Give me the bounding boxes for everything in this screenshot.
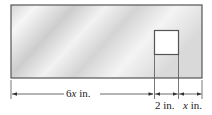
label-x-in: x in. xyxy=(183,100,202,111)
rectangle-with-square-hole-diagram: 6x in. 2 in. x in. xyxy=(0,0,212,115)
arrowhead-icon xyxy=(197,92,202,95)
label-2-in: 2 in. xyxy=(155,100,175,111)
diagram-graphic xyxy=(0,0,212,115)
arrowhead-icon xyxy=(12,92,17,95)
arrowhead-icon xyxy=(149,92,154,95)
arrowhead-icon xyxy=(180,92,185,95)
label-6x-in: 6x in. xyxy=(66,88,90,99)
label-x-unit: in. xyxy=(188,99,202,111)
label-2-in-text: 2 in. xyxy=(155,99,175,111)
arrowhead-icon xyxy=(173,92,178,95)
label-6x-unit: in. xyxy=(76,87,90,99)
square-hole xyxy=(155,31,179,55)
arrowhead-icon xyxy=(156,92,161,95)
